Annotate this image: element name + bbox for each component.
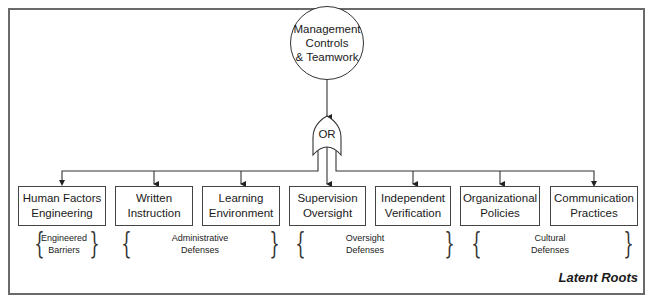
group-engineered-barriers: Engineered Barriers <box>38 232 90 256</box>
node-line: Independent <box>381 191 445 206</box>
node-organizational-policies: Organizational Policies <box>460 186 540 226</box>
node-line: Practices <box>570 206 617 221</box>
group-line: Defenses <box>510 244 590 256</box>
root-node-management-controls: Management Controls & Teamwork <box>290 6 364 80</box>
group-line: Oversight <box>330 232 400 244</box>
group-line: Barriers <box>38 244 90 256</box>
node-line: Oversight <box>303 206 352 221</box>
node-human-factors-engineering: Human Factors Engineering <box>18 186 106 226</box>
node-written-instruction: Written Instruction <box>115 186 193 226</box>
node-line: Human Factors <box>23 191 102 206</box>
brace-close-icon: } <box>623 226 634 260</box>
node-line: Instruction <box>127 206 180 221</box>
node-learning-environment: Learning Environment <box>202 186 280 226</box>
node-line: Engineering <box>31 206 92 221</box>
group-line: Administrative <box>140 232 260 244</box>
node-line: Policies <box>480 206 520 221</box>
brace-open-icon: { <box>471 226 482 260</box>
group-line: Defenses <box>140 244 260 256</box>
node-line: Supervision <box>297 191 357 206</box>
node-line: Verification <box>385 206 441 221</box>
group-line: Engineered <box>38 232 90 244</box>
group-line: Cultural <box>510 232 590 244</box>
root-line-2: Controls <box>293 36 360 50</box>
root-line-3: & Teamwork <box>293 50 360 64</box>
brace-open-icon: { <box>295 226 306 260</box>
group-cultural-defenses: Cultural Defenses <box>510 232 590 256</box>
or-gate-label: OR <box>313 128 341 140</box>
node-line: Communication <box>554 191 634 206</box>
group-line: Defenses <box>330 244 400 256</box>
brace-open-icon: { <box>121 226 132 260</box>
root-line-1: Management <box>293 22 360 36</box>
node-line: Learning <box>219 191 264 206</box>
node-line: Organizational <box>463 191 537 206</box>
node-line: Environment <box>209 206 274 221</box>
brace-close-icon: } <box>269 226 280 260</box>
node-supervision-oversight: Supervision Oversight <box>289 186 366 226</box>
brace-close-icon: } <box>89 226 100 260</box>
group-oversight-defenses: Oversight Defenses <box>330 232 400 256</box>
brace-close-icon: } <box>444 226 455 260</box>
caption-latent-roots: Latent Roots <box>559 270 638 285</box>
node-independent-verification: Independent Verification <box>375 186 451 226</box>
node-communication-practices: Communication Practices <box>550 186 638 226</box>
group-administrative-defenses: Administrative Defenses <box>140 232 260 256</box>
node-line: Written <box>136 191 172 206</box>
